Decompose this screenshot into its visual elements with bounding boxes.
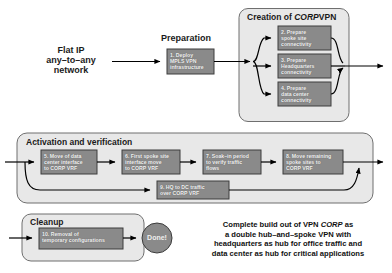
diagram-vector-layer bbox=[0, 0, 392, 273]
step-box-3[interactable] bbox=[278, 54, 331, 78]
step-box-6[interactable] bbox=[122, 150, 180, 174]
step-box-10[interactable] bbox=[39, 228, 123, 249]
terminal-node-done[interactable] bbox=[142, 223, 172, 253]
diagram-canvas: Flat IP any–to–any network Preparation C… bbox=[0, 0, 392, 273]
step-box-5[interactable] bbox=[41, 150, 97, 174]
step-box-8[interactable] bbox=[283, 150, 343, 174]
step-box-7[interactable] bbox=[203, 150, 261, 174]
step-box-2[interactable] bbox=[278, 26, 331, 50]
step-box-9[interactable] bbox=[157, 181, 229, 199]
step-box-1[interactable] bbox=[167, 49, 214, 74]
step-box-4[interactable] bbox=[278, 82, 331, 106]
